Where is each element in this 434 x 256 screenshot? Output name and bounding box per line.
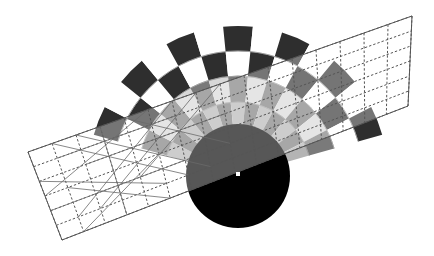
- center-marker-dot: [236, 172, 240, 176]
- fan-cell: [223, 26, 253, 52]
- fan-cell: [226, 51, 251, 76]
- figure-canvas: [0, 0, 434, 256]
- center-marker: [236, 172, 240, 176]
- geometry-figure: [0, 0, 434, 256]
